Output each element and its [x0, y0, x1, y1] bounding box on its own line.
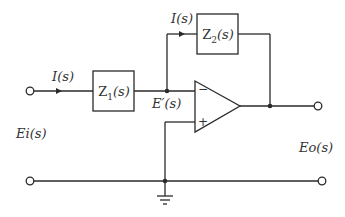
feedback-current-label: I(s) — [171, 12, 193, 25]
input-current-label: I(s) — [52, 70, 74, 83]
inverting-input-sign: − — [198, 83, 208, 95]
z2-label: Z2(s) — [200, 28, 236, 45]
z1-label: Z1(s) — [96, 85, 132, 102]
circuit-diagram: Z1(s) Z2(s) I(s) I(s) E′(s) Ei(s) Eo(s) … — [0, 0, 345, 217]
current-arrow-icon — [56, 88, 62, 94]
output-terminal-bottom — [318, 177, 326, 185]
input-terminal-top — [26, 87, 34, 95]
noninverting-input-sign: + — [198, 116, 208, 128]
node-voltage-label: E′(s) — [152, 97, 181, 110]
input-voltage-label: Ei(s) — [16, 127, 46, 140]
output-voltage-label: Eo(s) — [299, 141, 333, 154]
feedback-current-arrow-icon — [179, 31, 185, 37]
output-terminal-top — [314, 102, 322, 110]
input-terminal-bottom — [26, 177, 34, 185]
